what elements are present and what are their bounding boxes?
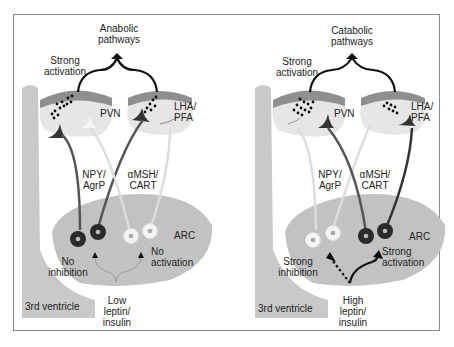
- label-line: PFA: [174, 112, 196, 123]
- label-line: inhibition: [46, 267, 90, 278]
- right-arc-label: ARC: [409, 231, 430, 242]
- label-line: LHA/: [411, 101, 433, 112]
- right-strong-inhibition-label: Stronginhibition: [275, 256, 321, 278]
- label-line: pathways: [94, 34, 144, 45]
- label-line: Strong: [272, 56, 322, 67]
- left-third-ventricle-label: 3rd ventricle: [25, 301, 79, 312]
- label-line: Strong: [382, 246, 424, 257]
- catabolic-arrow: [310, 58, 395, 92]
- label-line: insulin: [336, 317, 370, 328]
- right-pvn-label: PVN: [334, 108, 355, 119]
- low-leptin-insulin-label: Lowleptin/insulin: [100, 295, 134, 328]
- label-line: CART: [358, 180, 392, 191]
- label-line: pathways: [327, 36, 377, 47]
- label-line: Catabolic: [327, 25, 377, 36]
- label-line: No: [151, 246, 193, 257]
- label-line: Low: [100, 295, 134, 306]
- left-panel-art: [22, 53, 212, 318]
- label-line: insulin: [100, 317, 134, 328]
- left-pvn-label: PVN: [100, 108, 121, 119]
- right-panel-art: [255, 53, 445, 318]
- right-strong-activation-label: Strongactivation: [272, 56, 322, 78]
- left-lha-pfa-label: LHA/PFA: [174, 101, 196, 123]
- right-lha-pfa-label: LHA/PFA: [411, 101, 433, 123]
- right-strong-activation-arc-label: Strongactivation: [382, 246, 424, 268]
- left-no-inhibition-label: Noinhibition: [46, 256, 90, 278]
- label-line: Strong: [40, 55, 90, 66]
- label-line: PFA: [411, 112, 433, 123]
- label-line: AgrP: [80, 180, 108, 191]
- right-msh-cart-label: αMSH/CART: [358, 169, 392, 191]
- right-npy-agrp-label: NPY/AgrP: [316, 169, 344, 191]
- label-line: activation: [40, 66, 90, 77]
- label-line: No: [46, 256, 90, 267]
- catabolic-pathways-label: Catabolicpathways: [327, 25, 377, 47]
- high-leptin-insulin-label: Highleptin/insulin: [336, 295, 370, 328]
- anabolic-arrowhead: [111, 53, 123, 59]
- label-line: leptin/: [100, 306, 134, 317]
- label-line: CART: [126, 180, 160, 191]
- label-line: activation: [151, 257, 193, 268]
- label-line: Strong: [275, 256, 321, 267]
- label-line: leptin/: [336, 306, 370, 317]
- left-npy-agrp-label: NPY/AgrP: [80, 169, 108, 191]
- catabolic-arrowhead: [346, 53, 358, 59]
- label-line: Anabolic: [94, 23, 144, 34]
- label-line: inhibition: [275, 267, 321, 278]
- label-line: activation: [382, 257, 424, 268]
- label-line: NPY/: [316, 169, 344, 180]
- left-msh-cart-label: αMSH/CART: [126, 169, 160, 191]
- right-third-ventricle-label: 3rd ventricle: [258, 303, 312, 314]
- left-no-activation-label: Noactivation: [151, 246, 193, 268]
- label-line: αMSH/: [358, 169, 392, 180]
- label-line: High: [336, 295, 370, 306]
- anabolic-pathways-label: Anabolicpathways: [94, 23, 144, 45]
- label-line: activation: [272, 67, 322, 78]
- left-arc-label: ARC: [174, 230, 195, 241]
- left-strong-activation-label: Strongactivation: [40, 55, 90, 77]
- label-line: LHA/: [174, 101, 196, 112]
- label-line: αMSH/: [126, 169, 160, 180]
- label-line: AgrP: [316, 180, 344, 191]
- label-line: NPY/: [80, 169, 108, 180]
